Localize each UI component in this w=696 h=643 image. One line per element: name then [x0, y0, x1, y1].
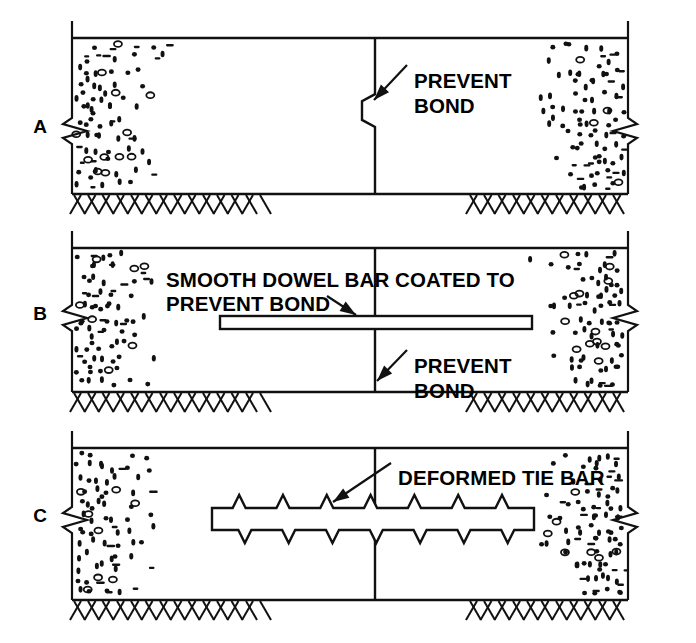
aggregate-dot — [76, 170, 81, 175]
aggregate-dot — [129, 294, 134, 299]
aggregate-dot — [612, 293, 617, 298]
aggregate-pellet — [603, 261, 607, 268]
aggregate-dot — [613, 537, 618, 542]
aggregate-ring — [84, 511, 92, 517]
aggregate-dot — [560, 124, 565, 129]
aggregate-dash — [609, 53, 615, 55]
aggregate-ring — [544, 531, 552, 537]
aggregate-dot — [615, 68, 620, 73]
aggregate-dot — [74, 462, 79, 467]
tied-joint-panel: DEFORMED TIE BARC — [33, 431, 637, 620]
aggregate-pellet — [622, 170, 626, 177]
aggregate-pellet — [590, 333, 594, 340]
aggregate-dot — [589, 276, 594, 281]
doweled-joint-panel: SMOOTH DOWEL BAR COATED TOPREVENT BONDPR… — [33, 231, 637, 412]
aggregate-dot — [549, 262, 554, 267]
aggregate-dot — [615, 320, 620, 325]
aggregate-dot — [547, 515, 552, 520]
aggregate-dot — [88, 370, 93, 375]
deformed-tie-bar-callout: DEFORMED TIE BAR — [333, 463, 605, 502]
aggregate-dot — [589, 173, 594, 178]
aggregate-dot — [602, 147, 607, 152]
aggregate-dash — [613, 458, 619, 460]
aggregate-dot — [120, 329, 125, 334]
aggregate-pellet — [114, 566, 118, 573]
aggregate-dash — [96, 54, 101, 56]
aggregate-dot — [82, 489, 87, 494]
aggregate-pellet — [149, 278, 153, 285]
callout-text-line: PREVENT BOND — [166, 292, 330, 315]
aggregate-pellet — [539, 94, 543, 101]
right-break-symbol — [613, 292, 637, 344]
subgrade-hatching — [70, 601, 624, 620]
aggregate-dot — [562, 296, 567, 301]
aggregate-pellet — [588, 561, 592, 568]
aggregate-pellet — [75, 181, 79, 188]
aggregate-ring — [587, 549, 595, 555]
aggregate-dot — [87, 278, 92, 283]
aggregate-pellet — [586, 381, 590, 388]
aggregate-ring — [94, 574, 102, 580]
aggregate-pellet — [578, 529, 582, 536]
aggregate-dot — [105, 157, 110, 162]
aggregate-pellet — [84, 147, 88, 154]
aggregate-dot — [132, 333, 137, 338]
aggregate-dot — [114, 366, 119, 371]
aggregate-dot — [615, 283, 620, 288]
aggregate-pellet — [98, 288, 102, 295]
aggregate-pellet — [161, 51, 165, 58]
aggregate-dot — [550, 45, 555, 50]
aggregate-dash — [110, 290, 116, 292]
subgrade-hatch-line — [260, 601, 271, 620]
aggregate-pellet — [78, 474, 82, 481]
aggregate-pellet — [100, 376, 104, 383]
aggregate-dot — [613, 118, 618, 123]
aggregate-ring — [601, 343, 609, 349]
aggregate-ring — [560, 252, 568, 258]
aggregate-dash — [91, 160, 97, 162]
aggregate-dot — [621, 110, 626, 115]
aggregate-dot — [128, 378, 133, 383]
aggregate-dot — [566, 265, 571, 270]
callout-text-line: PREVENT — [414, 69, 512, 92]
aggregate-dash — [106, 591, 113, 593]
aggregate-dot — [619, 526, 624, 531]
aggregate-pellet — [604, 274, 608, 281]
aggregate-dash — [576, 303, 582, 305]
aggregate-pellet — [131, 490, 135, 497]
aggregate-pellet — [596, 280, 600, 287]
aggregate-ring — [586, 341, 594, 347]
aggregate-dot — [130, 453, 135, 458]
aggregate-dot — [89, 532, 94, 537]
aggregate-dot — [106, 150, 111, 155]
aggregate-pellet — [606, 575, 610, 582]
aggregate-dot — [125, 465, 130, 470]
aggregate-pellet — [597, 529, 601, 536]
aggregate-ring — [128, 343, 136, 349]
aggregate-pellet — [100, 182, 104, 189]
aggregate-pellet — [78, 64, 82, 71]
aggregate-dash — [604, 385, 613, 387]
aggregate-dot — [122, 339, 127, 344]
aggregate-pellet — [607, 59, 611, 66]
aggregate-dot — [91, 111, 96, 116]
aggregate-pellet — [133, 135, 137, 142]
aggregate-pellet — [100, 463, 104, 470]
aggregate-pellet — [615, 487, 619, 494]
aggregate-pellet — [95, 485, 99, 492]
aggregate-dot — [593, 536, 598, 541]
aggregate-dash — [133, 588, 139, 590]
aggregate-pellet — [103, 540, 107, 547]
aggregate-dot — [582, 301, 587, 306]
subgrade-hatching — [70, 195, 624, 214]
aggregate-dash — [134, 46, 140, 48]
aggregate-dash — [572, 164, 577, 166]
aggregate-dot — [554, 156, 559, 161]
aggregate-dash — [587, 543, 595, 545]
aggregate-dot — [566, 502, 571, 507]
aggregate-pellet — [608, 551, 612, 558]
aggregate-pellet — [618, 300, 622, 307]
aggregate-right — [539, 41, 628, 190]
aggregate-pellet — [568, 69, 572, 76]
panel-letter-c: C — [33, 505, 47, 526]
